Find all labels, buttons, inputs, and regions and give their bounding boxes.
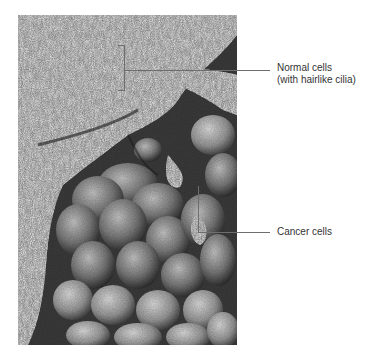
normal-cells-label: Normal cells (with hairlike cilia) [277, 62, 356, 86]
normal-cells-bracket-bottom-tick [118, 90, 125, 91]
normal-cells-label-line1: Normal cells [277, 62, 356, 74]
normal-cells-label-line2: (with hairlike cilia) [277, 74, 356, 86]
normal-cells-leader-line [124, 70, 270, 71]
cancer-cells-label: Cancer cells [277, 226, 332, 238]
normal-cells-bracket-top-tick [118, 45, 125, 46]
cancer-cells-bracket [198, 186, 199, 233]
cancer-cells-leader-line [198, 232, 270, 233]
cancer-cells-label-line1: Cancer cells [277, 226, 332, 238]
normal-cells-bracket [124, 45, 125, 91]
micrograph-photo [18, 15, 237, 345]
figure: Normal cells (with hairlike cilia) Cance… [0, 0, 372, 359]
